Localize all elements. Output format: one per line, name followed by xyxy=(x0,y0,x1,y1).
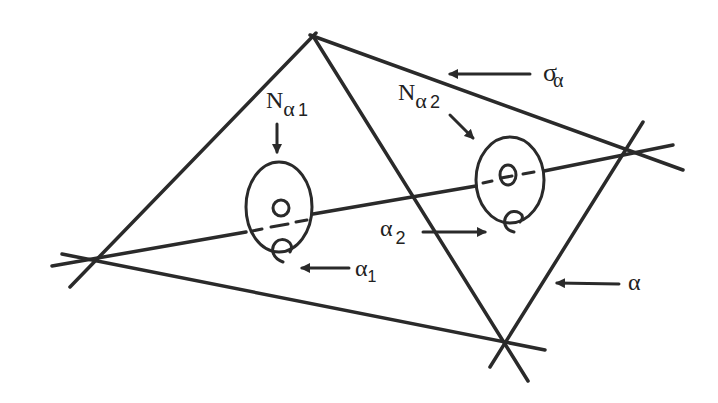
line-through-middle-segment xyxy=(313,186,476,214)
label-n-alpha2-greek: α xyxy=(415,88,427,113)
label-sigma-alpha: σα xyxy=(543,60,564,86)
label-n-alpha1-greek: α xyxy=(283,96,295,121)
line-inside-n2-dash-c xyxy=(523,172,534,174)
label-n-alpha2-main: N xyxy=(398,79,415,105)
label-alpha2-greek: α xyxy=(380,215,393,241)
line-inside-n2-dash-b xyxy=(501,176,512,178)
label-alpha1-sub: 1 xyxy=(368,268,377,285)
neighborhood-n-alpha2 xyxy=(476,137,544,223)
arrow-n-alpha2 xyxy=(450,115,473,138)
label-sigma-alpha-sub: α xyxy=(553,69,563,91)
label-n-alpha2-sub: 2 xyxy=(430,92,440,112)
line-inside-n2-dash-a xyxy=(483,181,492,183)
arrow-alpha xyxy=(557,283,619,284)
line-through-left-segment xyxy=(52,232,246,266)
label-alpha-greek: α xyxy=(628,269,641,295)
line-top-to-left xyxy=(70,33,316,287)
line-right-alpha xyxy=(490,122,643,367)
inner-circle-2 xyxy=(500,165,516,185)
label-n-alpha1: Nα1 xyxy=(266,88,308,112)
line-inside-n1-dash-c xyxy=(296,220,307,222)
label-alpha2: α2 xyxy=(380,216,406,240)
neighborhood-n-alpha1 xyxy=(246,162,312,252)
label-alpha2-sub: 2 xyxy=(396,228,406,248)
label-n-alpha1-main: N xyxy=(266,87,283,113)
line-inside-n1-dash-b xyxy=(271,224,288,227)
diagram-canvas xyxy=(0,0,718,403)
line-inside-n1-dash-a xyxy=(252,229,262,231)
label-alpha: α xyxy=(628,270,641,294)
inner-circle-1 xyxy=(273,200,289,216)
label-n-alpha1-sub: 1 xyxy=(298,100,308,120)
label-alpha1-greek: α xyxy=(355,255,368,281)
label-n-alpha2: Nα2 xyxy=(398,80,440,104)
label-alpha1: α1 xyxy=(355,256,376,280)
